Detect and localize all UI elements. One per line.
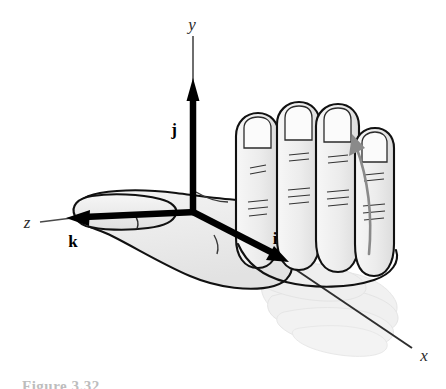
finger-pinky-nail bbox=[244, 117, 271, 148]
finger-index-nail bbox=[362, 132, 387, 162]
k-vector-label: k bbox=[68, 232, 78, 251]
finger-middle-nail bbox=[324, 108, 351, 142]
figure-caption: Figure 3.32 bbox=[22, 378, 100, 389]
z-axis-label: z bbox=[23, 213, 31, 232]
x-axis-label: x bbox=[419, 346, 428, 365]
y-axis-label: y bbox=[186, 15, 196, 34]
j-vector-label: j bbox=[170, 120, 177, 139]
i-vector-label: i bbox=[273, 229, 278, 248]
figure-right-hand-rule: y x z j i k Figure 3.32 bbox=[0, 0, 446, 389]
finger-ring-nail bbox=[285, 106, 312, 140]
right-hand-illustration bbox=[74, 102, 398, 289]
j-vector-arrowhead bbox=[187, 78, 200, 101]
figure-canvas: y x z j i k bbox=[0, 0, 446, 389]
